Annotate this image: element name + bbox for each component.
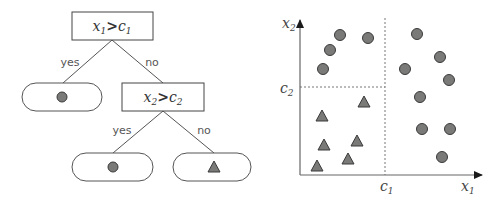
leaf-node-circle <box>22 83 102 111</box>
circle-point-icon <box>335 30 346 41</box>
circle-point-icon <box>363 33 374 44</box>
decision-tree-figure: yes no yes no x1>c1 x2>c2 <box>0 0 500 203</box>
circle-point-icon <box>325 45 336 56</box>
circle-class-icon <box>108 162 118 172</box>
circle-class-icon <box>57 92 67 102</box>
circle-point-icon <box>445 124 456 135</box>
leaf-node-circle-2 <box>72 153 153 181</box>
scatter-points <box>311 29 456 172</box>
y-axis-label: x2 <box>282 15 296 33</box>
edge-label-root-yes: yes <box>60 56 79 69</box>
circle-point-icon <box>318 64 329 75</box>
circle-point-icon <box>412 29 423 40</box>
triangle-point-icon <box>351 135 363 146</box>
circle-point-icon <box>437 152 448 163</box>
circle-point-icon <box>415 92 426 103</box>
edge-label-root-no: no <box>145 56 159 69</box>
x-axis-label: x1 <box>461 178 475 196</box>
circle-point-icon <box>400 64 411 75</box>
partition-plot: x2 x1 c2 c1 <box>280 15 482 196</box>
triangle-point-icon <box>316 110 328 121</box>
c2-label: c2 <box>280 80 294 98</box>
triangle-point-icon <box>342 153 354 164</box>
triangle-point-icon <box>358 96 370 107</box>
triangle-point-icon <box>311 160 323 171</box>
decision-tree: yes no yes no x1>c1 x2>c2 <box>22 12 251 181</box>
triangle-point-icon <box>318 139 330 150</box>
circle-point-icon <box>444 75 455 86</box>
inner-split-node: x2>c2 <box>122 83 204 111</box>
root-condition: x1>c1 <box>93 18 132 36</box>
circle-point-icon <box>435 52 446 63</box>
circle-point-icon <box>417 124 428 135</box>
root-split-node: x1>c1 <box>72 12 153 40</box>
edge-label-inner-no: no <box>197 124 211 137</box>
edge-label-inner-yes: yes <box>112 124 131 137</box>
c1-label: c1 <box>380 178 394 196</box>
leaf-node-triangle <box>173 153 251 181</box>
